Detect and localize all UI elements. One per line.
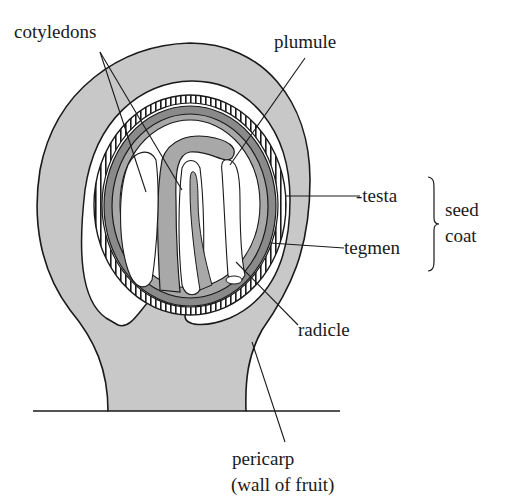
seed-coat-brace <box>428 177 439 271</box>
radicle-tip <box>226 276 242 284</box>
label-seed-coat-line1: seed <box>445 199 479 220</box>
leader-pericarp <box>252 342 285 442</box>
label-tegmen: tegmen <box>344 237 400 258</box>
fruit-section-diagram: cotyledons plumule -testa tegmen seed co… <box>0 0 512 499</box>
label-radicle: radicle <box>298 319 350 340</box>
label-plumule: plumule <box>274 31 336 52</box>
label-testa: -testa <box>356 185 398 206</box>
label-cotyledons: cotyledons <box>14 21 96 42</box>
label-seed-coat-line2: coat <box>445 225 477 246</box>
label-pericarp: pericarp <box>232 448 294 469</box>
label-wall-of-fruit: (wall of fruit) <box>231 474 334 496</box>
